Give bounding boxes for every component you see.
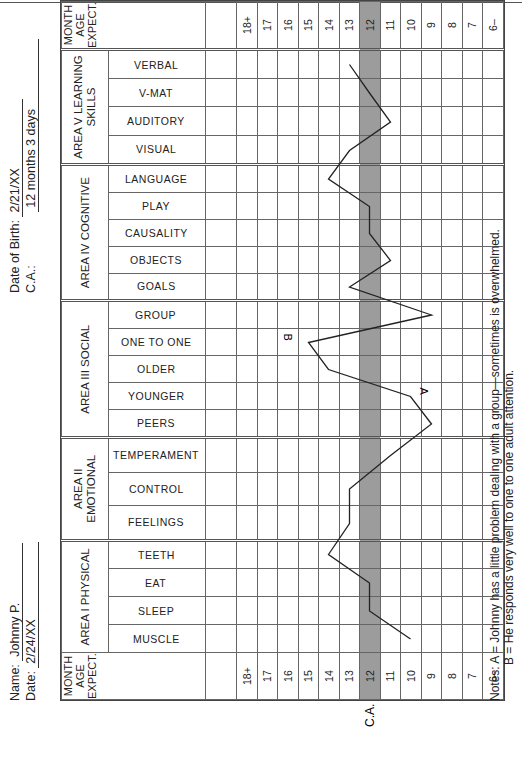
grid-cell <box>319 329 340 356</box>
grid-cell <box>442 107 463 135</box>
name-label: Name: <box>8 664 22 701</box>
grid-cell <box>237 506 258 541</box>
grid-cell <box>401 50 422 79</box>
grid-cell <box>462 79 483 107</box>
ca-label: C.A.: <box>24 265 38 293</box>
age-label-left: 10 <box>401 653 422 700</box>
age-label-right: 6– <box>483 2 504 50</box>
category-header: GROUP <box>109 301 206 329</box>
age-row: 1616 <box>278 2 299 700</box>
grid-cell <box>401 301 422 329</box>
grid-cell <box>237 356 258 383</box>
development-grid: MONTH AGE EXPECT.AREA I PHYSICALAREA II … <box>60 0 505 701</box>
age-label-left: 18+ <box>237 653 258 700</box>
grid-cell <box>237 219 258 246</box>
grid-cell <box>339 301 360 329</box>
grid-cell <box>298 301 319 329</box>
grid-cell <box>339 135 360 164</box>
grid-cell <box>257 50 278 79</box>
grid-cell <box>319 506 340 541</box>
grid-cell <box>298 540 319 569</box>
grid-cell <box>278 383 299 410</box>
grid-cell <box>483 164 504 192</box>
date-label: Date: <box>24 671 38 701</box>
grid-cell <box>278 79 299 107</box>
grid-cell <box>278 625 299 653</box>
grid-cell <box>278 50 299 79</box>
age-label-right: 10 <box>401 2 422 50</box>
age-row: 1010 <box>401 2 422 700</box>
grid-cell <box>319 50 340 79</box>
age-label-right: 13 <box>339 2 360 50</box>
grid-cell <box>380 569 401 597</box>
category-header: EAT <box>109 569 206 597</box>
grid-cell <box>319 301 340 329</box>
grid-cell <box>339 329 360 356</box>
grid-cell <box>278 192 299 219</box>
note-b: B = He responds very well to one to one … <box>502 229 516 701</box>
grid-cell <box>380 540 401 569</box>
dob-label: Date of Birth: <box>8 220 22 293</box>
grid-cell <box>360 301 381 329</box>
age-row: 88 <box>442 2 463 700</box>
grid-cell <box>462 192 483 219</box>
grid-cell <box>462 597 483 625</box>
grid-cell <box>278 356 299 383</box>
grid-cell <box>421 540 442 569</box>
grid-cell <box>442 301 463 329</box>
grid-cell <box>401 625 422 653</box>
grid-cell <box>380 356 401 383</box>
grid-cell <box>462 506 483 541</box>
age-label-left: 11 <box>380 653 401 700</box>
grid-cell <box>360 329 381 356</box>
grid-cell <box>339 472 360 506</box>
grid-cell <box>237 273 258 301</box>
grid-cell <box>442 164 463 192</box>
area-header: AREA V LEARNING SKILLS <box>62 50 109 165</box>
grid-cell <box>401 506 422 541</box>
age-row: 18+18+ <box>237 2 258 700</box>
grid-cell <box>339 540 360 569</box>
grid-cell <box>360 107 381 135</box>
grid-cell <box>401 329 422 356</box>
grid-cell <box>237 135 258 164</box>
grid-cell <box>237 437 258 472</box>
age-label-right: 14 <box>319 2 340 50</box>
notes: Notes: A = Johnny has a little problem d… <box>488 229 516 701</box>
grid-cell <box>237 410 258 438</box>
grid-cell <box>298 79 319 107</box>
grid-cell <box>339 383 360 410</box>
grid-cell <box>421 246 442 273</box>
grid-cell <box>339 219 360 246</box>
grid-cell <box>401 219 422 246</box>
grid-cell <box>278 219 299 246</box>
grid-cell <box>462 472 483 506</box>
grid-cell <box>442 50 463 79</box>
rotated-chart-frame: Name: Johnny P. Date: 2/24/XX Date of Bi… <box>0 0 522 763</box>
grid-cell <box>421 301 442 329</box>
grid-cell <box>360 135 381 164</box>
grid-cell <box>360 437 381 472</box>
grid-cell <box>380 219 401 246</box>
category-header: GOALS <box>109 273 206 301</box>
category-header: VISUAL <box>109 135 206 164</box>
grid-cell <box>298 192 319 219</box>
grid-cell <box>339 50 360 79</box>
age-label-right: 12 <box>360 2 381 50</box>
grid-cell <box>298 410 319 438</box>
grid-cell <box>339 192 360 219</box>
grid-cell <box>442 410 463 438</box>
grid-cell <box>380 246 401 273</box>
grid-cell <box>380 192 401 219</box>
grid-cell <box>360 192 381 219</box>
age-label-left: 7 <box>462 653 483 700</box>
month-age-header-left: MONTH AGE EXPECT. <box>62 653 206 700</box>
grid-cell <box>442 383 463 410</box>
grid-cell <box>401 356 422 383</box>
grid-cell <box>483 79 504 107</box>
grid-cell <box>380 301 401 329</box>
grid-cell <box>401 79 422 107</box>
grid-cell <box>257 597 278 625</box>
age-label-right: 18+ <box>237 2 258 50</box>
grid-cell <box>339 79 360 107</box>
